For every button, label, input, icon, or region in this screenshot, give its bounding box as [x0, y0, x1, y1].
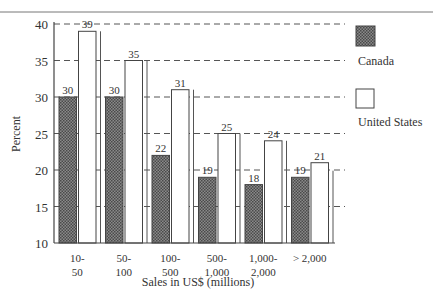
bar-canada [199, 177, 217, 243]
legend-label-united-states: United States [358, 115, 423, 129]
x-tick-label: 500- [207, 252, 228, 264]
y-axis-title: Percent [9, 115, 23, 152]
x-tick-label: 1,000- [249, 252, 278, 264]
bar-value-label: 24 [268, 128, 280, 140]
bar-canada [245, 185, 263, 243]
bar-value-label: 19 [295, 164, 307, 176]
bar-united-states [79, 31, 97, 243]
x-tick-label: > 2,000 [293, 252, 327, 264]
y-tick-label: 40 [35, 17, 48, 32]
bar-united-states [125, 61, 143, 244]
bar-united-states [265, 141, 283, 243]
bar-canada [152, 155, 170, 243]
x-tick-label: 10- [70, 252, 85, 264]
x-tick-label: 50- [116, 252, 131, 264]
bar-canada [59, 97, 77, 243]
bar-value-label: 19 [202, 164, 214, 176]
legend-swatch-united-states [356, 89, 374, 108]
bar-value-label: 25 [221, 121, 233, 133]
bar-united-states [311, 163, 329, 243]
y-tick-label: 30 [35, 90, 48, 105]
x-tick-label: 100- [160, 252, 181, 264]
legend-swatch-canada [356, 26, 375, 46]
bar-chart: 303930352231192518241921 10152025303540 … [0, 0, 438, 301]
x-axis-title: Sales in US$ (millions) [142, 275, 254, 289]
bar-united-states [172, 90, 190, 243]
bar-value-label: 30 [62, 84, 74, 96]
y-tick-labels: 10152025303540 [35, 17, 48, 251]
bar-value-label: 22 [155, 142, 166, 154]
y-tick-label: 25 [35, 127, 48, 142]
y-tick-label: 15 [35, 200, 48, 215]
y-tick-label: 35 [35, 54, 48, 69]
bar-canada [106, 97, 124, 243]
bar-canada [292, 177, 310, 243]
bar-value-label: 30 [109, 84, 121, 96]
bar-value-label: 18 [248, 172, 260, 184]
bar-value-label: 39 [82, 18, 94, 30]
y-tick-label: 10 [35, 236, 48, 251]
x-tick-label: 50 [72, 266, 84, 278]
x-tick-label: 100 [116, 266, 133, 278]
y-tick-label: 20 [35, 163, 48, 178]
bar-united-states [218, 134, 236, 244]
legend-label-canada: Canada [358, 54, 395, 68]
bar-value-label: 21 [314, 150, 325, 162]
bar-value-label: 35 [128, 48, 140, 60]
x-tick-label: 2,000 [251, 266, 276, 278]
legend: Canada United States [356, 26, 423, 129]
bar-value-label: 31 [175, 77, 186, 89]
